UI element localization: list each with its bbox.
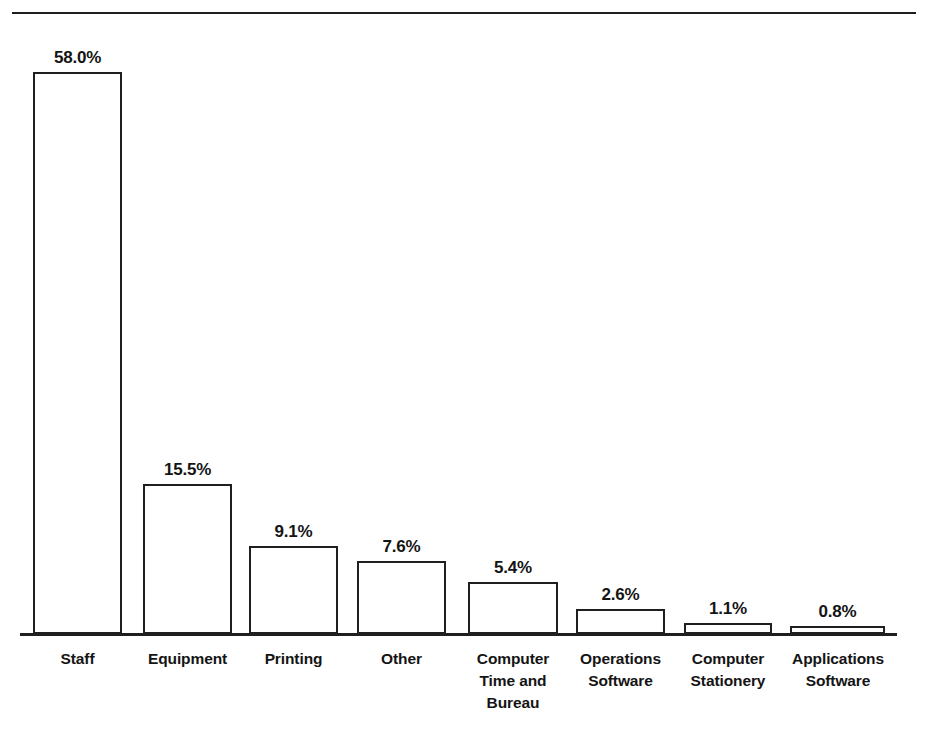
x-tick-line: Equipment bbox=[138, 648, 237, 670]
value-label-operations-software: 2.6% bbox=[576, 585, 665, 604]
x-tick-line: Bureau bbox=[461, 692, 565, 714]
x-tick-label-staff: Staff bbox=[28, 648, 127, 670]
x-tick-line: Time and bbox=[461, 670, 565, 692]
value-label-computer-time-and-bureau: 5.4% bbox=[468, 558, 558, 577]
x-axis-line bbox=[20, 633, 897, 636]
x-tick-line: Printing bbox=[244, 648, 343, 670]
bar-equipment bbox=[143, 484, 232, 634]
x-axis-tick-labels: Staff Equipment Printing Other Computer … bbox=[0, 648, 928, 734]
x-tick-line: Operations bbox=[569, 648, 672, 670]
plot-area: 58.0% 15.5% 9.1% 7.6% 5.4% 2.6% 1.1% 0.8… bbox=[0, 0, 928, 636]
x-tick-label-computer-time-and-bureau: Computer Time and Bureau bbox=[461, 648, 565, 714]
x-tick-label-computer-stationery: Computer Stationery bbox=[677, 648, 779, 692]
value-label-computer-stationery: 1.1% bbox=[684, 599, 772, 618]
bar-computer-time-and-bureau bbox=[468, 582, 558, 634]
bar-other bbox=[357, 561, 446, 634]
bar-operations-software bbox=[576, 609, 665, 634]
value-label-equipment: 15.5% bbox=[143, 460, 232, 479]
x-tick-line: Software bbox=[569, 670, 672, 692]
x-tick-line: Applications bbox=[784, 648, 892, 670]
x-tick-label-printing: Printing bbox=[244, 648, 343, 670]
x-tick-line: Computer bbox=[461, 648, 565, 670]
x-tick-label-other: Other bbox=[352, 648, 451, 670]
bar-chart: 58.0% 15.5% 9.1% 7.6% 5.4% 2.6% 1.1% 0.8… bbox=[0, 0, 928, 734]
value-label-staff: 58.0% bbox=[33, 48, 122, 67]
value-label-other: 7.6% bbox=[357, 537, 446, 556]
x-tick-line: Staff bbox=[28, 648, 127, 670]
x-tick-line: Software bbox=[784, 670, 892, 692]
x-tick-line: Other bbox=[352, 648, 451, 670]
bar-staff bbox=[33, 72, 122, 634]
x-tick-line: Stationery bbox=[677, 670, 779, 692]
value-label-printing: 9.1% bbox=[249, 522, 338, 541]
x-tick-label-applications-software: Applications Software bbox=[784, 648, 892, 692]
value-label-applications-software: 0.8% bbox=[790, 602, 885, 621]
x-tick-line: Computer bbox=[677, 648, 779, 670]
x-tick-label-operations-software: Operations Software bbox=[569, 648, 672, 692]
bar-printing bbox=[249, 546, 338, 634]
x-tick-label-equipment: Equipment bbox=[138, 648, 237, 670]
